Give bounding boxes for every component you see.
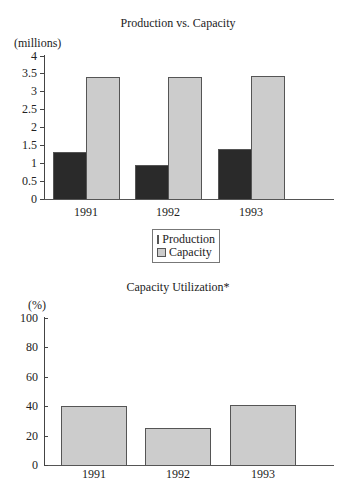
- y-tick-label: 2.5: [7, 103, 37, 115]
- y-tick: [44, 377, 48, 378]
- y-tick: [44, 318, 48, 319]
- y-tick-label: 40: [8, 400, 38, 412]
- y-tick-label: 2: [7, 121, 37, 133]
- utilization-bar-1992: [145, 428, 211, 466]
- y-tick: [40, 56, 44, 57]
- production-bar-1992: [135, 165, 169, 200]
- y-tick-label: 1: [7, 157, 37, 169]
- x-tick-label: 1991: [56, 205, 116, 220]
- capacity-bar-1991: [86, 77, 120, 200]
- y-tick: [44, 436, 48, 437]
- capacity-bar-1992: [168, 77, 202, 200]
- capacity-bar-1993: [251, 76, 285, 200]
- production-bar-1991: [53, 152, 87, 200]
- y-tick-label: 4: [7, 50, 37, 62]
- legend-item-capacity: Capacity: [157, 246, 215, 259]
- y-tick: [40, 163, 44, 164]
- x-tick-label: 1992: [148, 467, 208, 480]
- chart-title: Capacity Utilization*: [0, 280, 356, 295]
- y-tick-label: 0.5: [7, 175, 37, 187]
- y-tick: [40, 145, 44, 146]
- production-swatch: [157, 235, 159, 244]
- utilization-bar-1991: [61, 406, 127, 466]
- chart-title: Production vs. Capacity: [0, 16, 356, 31]
- y-tick-label: 0: [7, 193, 37, 205]
- y-tick-label: 60: [8, 371, 38, 383]
- legend-label: Capacity: [169, 245, 212, 260]
- y-tick: [40, 91, 44, 92]
- y-tick-label: 0: [8, 459, 38, 471]
- y-tick-label: 3.5: [7, 67, 37, 79]
- y-tick-label: 80: [8, 341, 38, 353]
- x-tick-label: 1992: [138, 205, 198, 220]
- x-tick-label: 1991: [64, 467, 124, 480]
- y-tick: [44, 347, 48, 348]
- utilization-bar-1993: [230, 405, 296, 466]
- y-tick: [44, 406, 48, 407]
- y-tick: [40, 109, 44, 110]
- y-axis: [44, 55, 45, 200]
- y-tick: [40, 181, 44, 182]
- y-tick: [40, 199, 44, 200]
- x-tick-label: 1993: [233, 467, 293, 480]
- legend: Production Capacity: [152, 229, 220, 263]
- y-tick-label: 1.5: [7, 139, 37, 151]
- y-tick: [40, 73, 44, 74]
- y-tick: [40, 127, 44, 128]
- y-axis: [44, 317, 45, 465]
- capacity-swatch: [157, 248, 166, 257]
- x-tick-label: 1993: [221, 205, 281, 220]
- y-tick-label: 3: [7, 85, 37, 97]
- y-tick-label: 100: [8, 312, 38, 324]
- production-bar-1993: [218, 149, 252, 200]
- y-tick-label: 20: [8, 430, 38, 442]
- y-tick: [44, 465, 48, 466]
